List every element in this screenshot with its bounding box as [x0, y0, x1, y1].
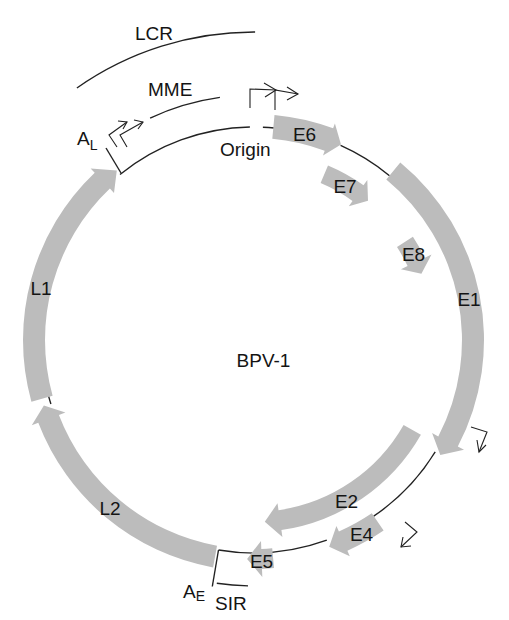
- promoter-group-origin: [250, 83, 298, 110]
- promoter-arrow-icon: [471, 427, 487, 452]
- promoter-group-al: [109, 120, 143, 147]
- backbone-segment-e6-e1: [341, 145, 390, 175]
- al-polya-label: AL: [77, 128, 98, 153]
- gene-e2: E2: [265, 425, 421, 537]
- gene-e1-label: E1: [457, 289, 480, 310]
- gene-e8: E8: [397, 237, 432, 274]
- gene-e8-label: E8: [402, 244, 425, 265]
- promoter-group-e4: [401, 522, 417, 547]
- mme-label: MME: [148, 79, 192, 100]
- gene-l1-label: L1: [30, 278, 51, 299]
- genome-title: BPV-1: [237, 350, 291, 371]
- backbone-segment-origin-dash: [263, 127, 275, 128]
- bpv1-genome-map: LCR MME SIR AL AE Origin: [0, 0, 509, 620]
- gene-l2: L2: [32, 405, 217, 567]
- sir-label: SIR: [215, 593, 247, 614]
- gene-l1: L1: [23, 168, 117, 401]
- gene-e7-label: E7: [333, 176, 356, 197]
- ae-subscript: E: [196, 588, 205, 604]
- gene-l2-arrow: [32, 405, 217, 567]
- backbone-segment-l2-l1: [49, 396, 51, 404]
- ae-polya-label: AE: [183, 581, 205, 604]
- gene-e7: E7: [321, 166, 368, 207]
- gene-e6-label: E6: [293, 124, 316, 145]
- gene-e4-label: E4: [350, 524, 374, 545]
- gene-e4: E4: [329, 513, 383, 556]
- gene-e5-label: E5: [250, 551, 273, 572]
- promoter-arrow-icon: [120, 122, 143, 147]
- sir-arc: [217, 583, 248, 586]
- origin-label: Origin: [220, 139, 271, 160]
- mme-arc: [150, 97, 220, 118]
- promoter-arrow-icon: [401, 522, 417, 547]
- promoter-arrow-icon: [275, 90, 298, 110]
- gene-e2-label: E2: [335, 491, 358, 512]
- al-polya-tick: [106, 148, 121, 173]
- gene-e1: E1: [386, 163, 484, 456]
- gene-l2-label: L2: [99, 498, 120, 519]
- al-subscript: L: [90, 137, 98, 153]
- gene-e6: E6: [272, 115, 341, 156]
- promoter-group-e1: [471, 427, 487, 452]
- gene-e5: E5: [247, 541, 274, 577]
- lcr-label: LCR: [135, 23, 173, 44]
- al-letter: A: [77, 128, 90, 149]
- ae-letter: A: [183, 581, 196, 602]
- gene-e2-arrow: [265, 425, 421, 537]
